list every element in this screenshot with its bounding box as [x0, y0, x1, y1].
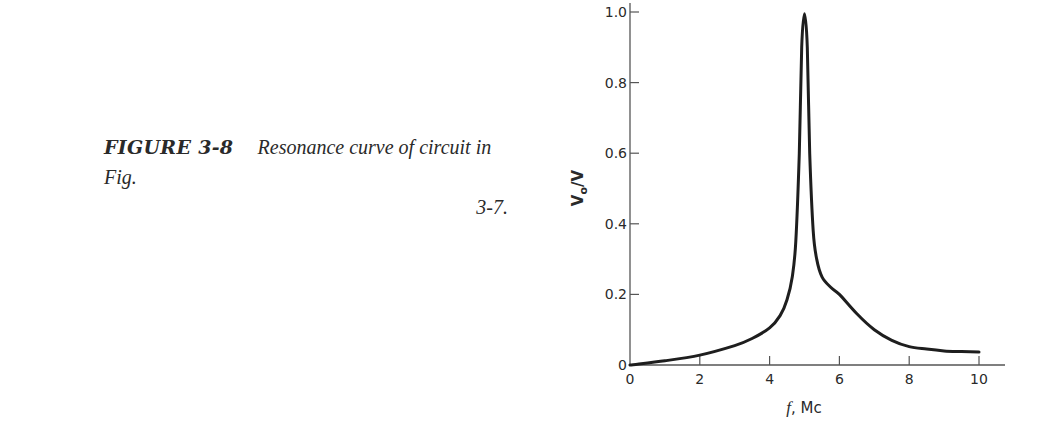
x-tick-label: 10: [970, 371, 988, 387]
x-tick-label: 8: [905, 371, 914, 387]
y-tick-label: 0.2: [605, 286, 627, 302]
x-tick-label: 6: [835, 371, 844, 387]
x-tick-label: 0: [626, 371, 635, 387]
resonance-curve: [630, 14, 979, 365]
y-tick-label: 0.6: [605, 145, 627, 161]
y-tick-label: 0.4: [605, 216, 627, 232]
x-tick-label: 2: [695, 371, 704, 387]
x-tick-label: 4: [765, 371, 774, 387]
y-axis-title: Vo/V: [569, 169, 590, 206]
y-tick-label: 1.0: [605, 4, 627, 20]
x-axis-title: f, Mc: [786, 398, 821, 417]
chart-axes: [630, 3, 1005, 365]
resonance-chart: 00.20.40.60.81.00246810 f, Mc Vo/V: [0, 0, 1040, 438]
chart-ticks: 00.20.40.60.81.00246810: [605, 4, 988, 387]
y-tick-label: 0.8: [605, 75, 627, 91]
